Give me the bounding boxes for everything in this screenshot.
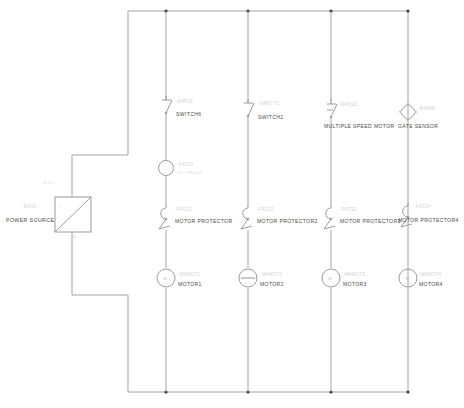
- mp-c2-ref: -F4C22: [257, 207, 274, 212]
- motor-c1-glyph: M: [164, 277, 167, 281]
- switch-symbol-c2[interactable]: [244, 99, 254, 117]
- power-source-terminal-plus: +: [60, 204, 62, 208]
- power-source-ref: -E4U1: [22, 204, 36, 209]
- switch-symbol-c1[interactable]: [162, 96, 172, 114]
- mp-c2-curve: [243, 208, 248, 219]
- relay-c1-circle: [159, 161, 174, 176]
- motor-c2-label: MOTOR2: [260, 281, 284, 287]
- motor-symbol-c1[interactable]: M: [157, 269, 175, 287]
- motor-c3-glyph: M: [329, 277, 332, 281]
- junction-dot-bottom-c4: [406, 390, 409, 393]
- switch-c2-blade: [248, 103, 254, 116]
- motor-c4-label: MOTOR4: [419, 281, 443, 287]
- switch-c1-ref: -S4P1E: [176, 99, 193, 104]
- column-3: -M4H1D MULTIPLE SPEED MOTOR -F4T32 MOTOR…: [322, 9, 401, 393]
- column-1: -S4P1E SWITCH6 -K4T21 RLY RELAY -F4C21 M…: [157, 9, 232, 393]
- mp-c4-curve: [403, 206, 408, 217]
- power-source-terminal-bottom: 0: [73, 235, 75, 239]
- motor-c2-ref: -M4MOT2: [260, 272, 283, 277]
- motor-c4-glyph: M: [406, 277, 409, 281]
- switch-c1-label: SWITCH6: [176, 111, 201, 117]
- power-source-terminal-minus: -: [80, 223, 82, 227]
- mp-c3-curve: [326, 208, 331, 219]
- switch-c2-ref: -S4P5 T1: [258, 101, 280, 106]
- column-2: -S4P5 T1 SWITCH2 -F4C22 MOTOR PROTECTOR2…: [239, 9, 318, 393]
- gate-sensor-ref: -B4N6E: [418, 106, 436, 111]
- switch-c1-blade: [166, 100, 172, 113]
- power-source-diagonal: [55, 197, 91, 232]
- mp-c4-label: MOTOR PROTECTOR4: [398, 217, 459, 223]
- motor-c1-ref: -M4MOT1: [178, 272, 201, 277]
- motor-symbol-c2[interactable]: [239, 269, 257, 287]
- motor-protector-symbol-c4[interactable]: [401, 203, 412, 227]
- msm-c3-blade: [331, 104, 337, 117]
- relay-symbol-c1[interactable]: [159, 161, 174, 176]
- mp-c1-curve: [161, 208, 166, 219]
- msm-c3-ref: -M4H1D: [339, 102, 358, 107]
- motor-protector-symbol-c3[interactable]: [324, 205, 335, 229]
- msm-c3-label: MULTIPLE SPEED MOTOR: [324, 123, 395, 129]
- column-4: -B4N6E GATE SENSOR -F4C24 MOTOR PROTECTO…: [398, 9, 459, 393]
- motor-protector-symbol-c2[interactable]: [241, 205, 252, 229]
- motor-c3-label: MOTOR3: [343, 281, 367, 287]
- motor-c4-ref: -M4MOT4: [419, 272, 442, 277]
- schematic-canvas: + - 0 -E4U1 POWER SOURCE -E E - -S4P1E S…: [0, 0, 464, 408]
- mp-c2-label: MOTOR PROTECTOR2: [257, 218, 318, 224]
- multi-speed-motor-symbol-c3[interactable]: [327, 99, 337, 118]
- power-source-label: POWER SOURCE: [6, 217, 54, 223]
- junction-dot-top-c4: [406, 9, 409, 12]
- mp-c4-ref: -F4C24: [414, 204, 431, 209]
- motor-c3-ref: -M4MOT3: [343, 272, 366, 277]
- motor-symbol-c3[interactable]: M: [322, 269, 340, 287]
- mp-c3-ref: -F4T32: [340, 207, 357, 212]
- relay-c1-ref: -K4T21: [177, 162, 194, 167]
- mp-c3-label: MOTOR PROTECTOR3: [340, 218, 401, 224]
- rails: [128, 11, 408, 392]
- relay-c1-label: RLY RELAY: [177, 170, 203, 175]
- motor-protector-symbol-c1[interactable]: [159, 205, 170, 229]
- power-source-symbol[interactable]: + - 0: [55, 197, 91, 239]
- switch-c2-label: SWITCH2: [258, 114, 283, 120]
- mp-c1-ref: -F4C21: [175, 207, 192, 212]
- gate-sensor-label: GATE SENSOR: [398, 123, 438, 129]
- stray-mark-upper-left: -E E -: [42, 180, 55, 185]
- motor-c1-label: MOTOR1: [178, 281, 202, 287]
- mp-c1-label: MOTOR PROTECTOR: [175, 218, 232, 224]
- ladder-diagram: + - 0 -E4U1 POWER SOURCE -E E - -S4P1E S…: [0, 0, 464, 408]
